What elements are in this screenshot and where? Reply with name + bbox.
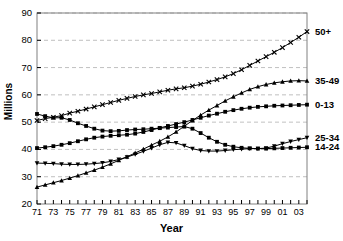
data-point: [207, 114, 211, 118]
data-point: [166, 134, 171, 138]
data-point: [191, 118, 195, 122]
data-point: [182, 125, 186, 129]
data-point: [256, 59, 260, 63]
data-point: [289, 146, 293, 150]
data-point: [231, 108, 235, 112]
data-point: [51, 116, 55, 120]
data-point: [133, 128, 137, 132]
line-chart: Millions 2030405060708090 71737577798183…: [0, 0, 343, 241]
data-point: [305, 103, 309, 107]
data-point: [35, 146, 39, 150]
data-point: [92, 127, 96, 131]
x-axis-title: Year: [0, 222, 343, 234]
data-point: [125, 128, 129, 132]
series-25-34: [35, 136, 310, 167]
data-point: [240, 107, 244, 111]
data-point: [288, 40, 292, 44]
data-point: [166, 126, 170, 130]
data-point: [272, 104, 276, 108]
data-point: [272, 50, 276, 54]
data-point: [174, 130, 179, 134]
data-point: [182, 120, 186, 124]
data-point: [141, 127, 145, 131]
data-point: [231, 71, 235, 75]
series-label-25-34: 25-34: [315, 133, 339, 142]
data-point: [207, 136, 211, 140]
data-point: [125, 133, 129, 137]
data-point: [215, 140, 219, 144]
data-point: [256, 105, 260, 109]
data-point: [199, 131, 203, 135]
data-point: [68, 118, 72, 122]
series-label-0-13: 0-13: [315, 100, 334, 109]
data-point: [248, 106, 252, 110]
data-point: [109, 134, 113, 138]
data-point: [117, 129, 121, 133]
data-point: [248, 63, 252, 67]
data-point: [76, 121, 80, 125]
data-point: [191, 127, 195, 131]
data-point: [215, 112, 219, 116]
data-point: [84, 137, 88, 141]
series-label-35-49: 35-49: [315, 76, 339, 85]
data-point: [289, 103, 293, 107]
data-point: [280, 45, 284, 49]
data-point: [101, 129, 105, 133]
data-point: [223, 143, 227, 147]
data-point: [297, 35, 301, 39]
data-point: [199, 116, 203, 120]
data-point: [43, 114, 47, 118]
data-point: [76, 139, 80, 143]
data-point: [84, 124, 88, 128]
data-point: [117, 133, 121, 137]
series-line: [37, 114, 307, 149]
data-point: [133, 132, 137, 136]
data-point: [297, 146, 301, 150]
data-point: [207, 108, 212, 112]
series-label-50plus: 50+: [315, 27, 331, 36]
data-point: [223, 110, 227, 114]
data-point: [297, 103, 301, 107]
series-50plus: [35, 29, 309, 122]
data-point: [174, 125, 178, 129]
data-point: [158, 126, 162, 130]
data-point: [92, 136, 96, 140]
data-point: [51, 144, 55, 148]
data-point: [35, 112, 39, 116]
data-point: [281, 146, 285, 150]
plot-area: [0, 0, 343, 241]
data-point: [150, 127, 154, 131]
data-point: [109, 129, 113, 133]
data-point: [43, 145, 47, 149]
data-point: [60, 116, 64, 120]
data-point: [264, 54, 268, 58]
data-point: [215, 103, 220, 107]
series-line: [37, 81, 307, 187]
data-point: [60, 143, 64, 147]
series-14-24: [35, 112, 309, 150]
data-point: [239, 68, 243, 72]
data-point: [305, 145, 309, 149]
data-point: [68, 141, 72, 145]
data-point: [101, 135, 105, 139]
series-label-14-24: 14-24: [315, 142, 339, 151]
data-point: [157, 139, 162, 143]
data-point: [264, 104, 268, 108]
data-point: [281, 104, 285, 108]
